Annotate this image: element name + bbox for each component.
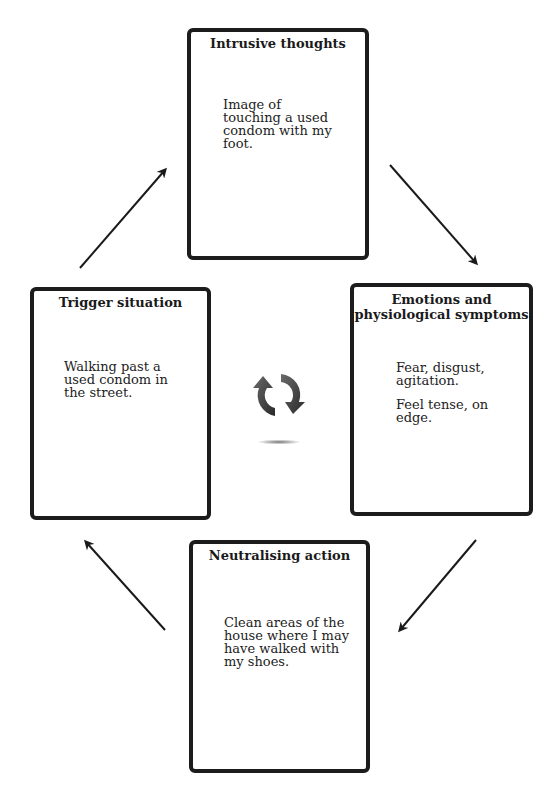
box-trigger-situation: Trigger situation Walking past a used co… — [30, 287, 211, 520]
box-text: Clean areas of the house where I may hav… — [224, 616, 349, 668]
arrow-trigger-to-intrusive — [80, 170, 165, 268]
arrow-neutralising-to-trigger — [86, 542, 165, 630]
arrow-emotions-to-neutralising — [400, 540, 476, 630]
box-title-line: Emotions and — [354, 292, 529, 307]
box-title: Trigger situation — [34, 295, 207, 310]
box-body: Clean areas of the house where I may hav… — [224, 616, 349, 678]
box-body: Walking past a used condom in the street… — [64, 360, 174, 409]
box-text: Walking past a used condom in the street… — [64, 360, 174, 399]
box-intrusive-thoughts: Intrusive thoughts Image of touching a u… — [187, 28, 369, 260]
box-emotions: Emotions and physiological symptoms Fear… — [350, 283, 533, 516]
box-body: Fear, disgust, agitation. Feel tense, on… — [396, 361, 526, 434]
box-neutralising-action: Neutralising action Clean areas of the h… — [189, 540, 370, 773]
box-text: Image of touching a used condom with my … — [223, 98, 343, 150]
box-title: Emotions and physiological symptoms — [354, 292, 529, 322]
box-title-line: physiological symptoms — [354, 307, 529, 322]
cycle-refresh-icon — [245, 360, 315, 450]
box-title: Neutralising action — [193, 548, 366, 563]
box-title: Intrusive thoughts — [191, 36, 365, 51]
box-body: Image of touching a used condom with my … — [223, 98, 343, 160]
arrow-intrusive-to-emotions — [390, 165, 476, 263]
box-text: Feel tense, on edge. — [396, 398, 526, 424]
box-text: Fear, disgust, agitation. — [396, 361, 526, 387]
